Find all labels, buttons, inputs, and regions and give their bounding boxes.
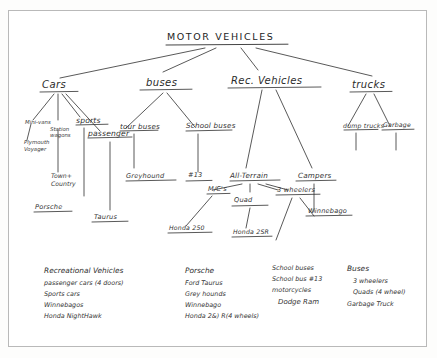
node-bus-13: #13 [188, 172, 203, 179]
list-column-4: Buses 3 wheelers Quads (4 wheel) Garbage… [347, 264, 399, 308]
list-heading: Recreational Vehicles [44, 266, 124, 275]
node-winnebago: Winnebago [308, 208, 347, 215]
node-honda-2sr: Honda 2SR [233, 229, 269, 235]
node-trucks: trucks [352, 80, 385, 90]
list-item: Grey hounds [185, 290, 259, 298]
list-item: School bus #13 [272, 275, 322, 283]
node-taurus: Taurus [94, 214, 117, 221]
list-heading: Buses [347, 264, 399, 273]
list-item: Ford Taurus [185, 279, 259, 287]
list-item: passenger cars (4 doors) [44, 279, 124, 287]
node-buses: buses [146, 78, 177, 88]
list-item: 3 wheelers [353, 277, 405, 285]
list-item: Winnebago [185, 301, 259, 309]
node-minivans: Mini-vans [25, 120, 51, 125]
node-honda-250: Honda 250 [169, 225, 205, 231]
node-sports: sports [76, 117, 101, 125]
node-three-wheelers: 3 wheelers [277, 187, 315, 194]
node-school-buses: School buses [186, 122, 236, 129]
node-plymouth-voyager: Plymouth Voyager [24, 139, 50, 153]
node-dump-trucks: dump trucks [343, 123, 384, 129]
list-item: Quads (4 wheel) [353, 288, 405, 296]
list-column-3: School buses School bus #13 motorcycles … [272, 264, 322, 306]
list-item: Winnebagos [44, 301, 124, 309]
list-heading: Porsche [185, 266, 259, 275]
node-porsche: Porsche [35, 204, 62, 211]
node-cars: Cars [42, 80, 66, 90]
list-column-1: Recreational Vehicles passenger cars (4 … [44, 266, 124, 320]
node-greyhound: Greyhound [126, 173, 164, 180]
list-item: Garbage Truck [347, 300, 399, 308]
node-quad: Quad [234, 197, 252, 204]
node-garbage: Garbage [383, 122, 411, 128]
node-town-country: Town+ Country [51, 172, 79, 188]
list-heading: School buses [272, 264, 322, 272]
list-column-2: Porsche Ford Taurus Grey hounds Winnebag… [185, 266, 259, 320]
screenshot-root: MOTOR VEHICLES Cars buses Rec. Vehicles … [0, 0, 437, 358]
node-rec-vehicles: Rec. Vehicles [231, 76, 302, 86]
list-item: Honda 2&) R(4 wheels) [185, 312, 259, 320]
list-item: motorcycles [272, 286, 322, 294]
node-station-wagons: Station wagons [50, 126, 80, 138]
node-passenger: passenger [88, 130, 129, 138]
list-item: Honda NightHawk [44, 312, 124, 320]
node-campers: Campers [298, 172, 332, 179]
list-item: Dodge Ram [278, 298, 328, 306]
list-item: Sports cars [44, 290, 124, 298]
node-root: MOTOR VEHICLES [167, 32, 274, 42]
node-tour-buses: tour buses [120, 123, 160, 130]
node-mcs: M/C's [208, 186, 227, 193]
node-all-terrain: All-Terrain [230, 172, 268, 179]
